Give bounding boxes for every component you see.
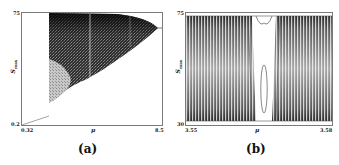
x-tick-left-a: 0.32 [21, 127, 33, 133]
bifurcation-plot-a [22, 13, 162, 125]
y-tick-top-a: 75 [13, 10, 20, 16]
y-axis-label-b: Smax [174, 60, 183, 74]
x-tick-right-a: 8.5 [155, 127, 164, 133]
x-axis-label-a: μ [91, 126, 95, 133]
panel-a: 75 0.2 0.32 8.5 Smax μ (a) [0, 0, 170, 165]
y-tick-top-b: 75 [177, 10, 184, 16]
plot-area-a [21, 12, 163, 126]
x-axis-label-b: μ [255, 126, 259, 133]
y-tick-bottom-b: 30 [177, 121, 184, 127]
caption-b: (b) [246, 142, 266, 156]
x-tick-right-b: 3.58 [320, 127, 332, 133]
bifurcation-plot-b [186, 13, 332, 125]
plot-area-b [185, 12, 333, 126]
caption-a: (a) [78, 142, 97, 156]
x-tick-left-b: 3.55 [185, 127, 197, 133]
panel-b: 75 30 3.55 3.58 Smax μ (b) [170, 0, 339, 165]
y-axis-label-a: Smax [9, 60, 18, 74]
y-tick-bottom-a: 0.2 [11, 121, 20, 127]
